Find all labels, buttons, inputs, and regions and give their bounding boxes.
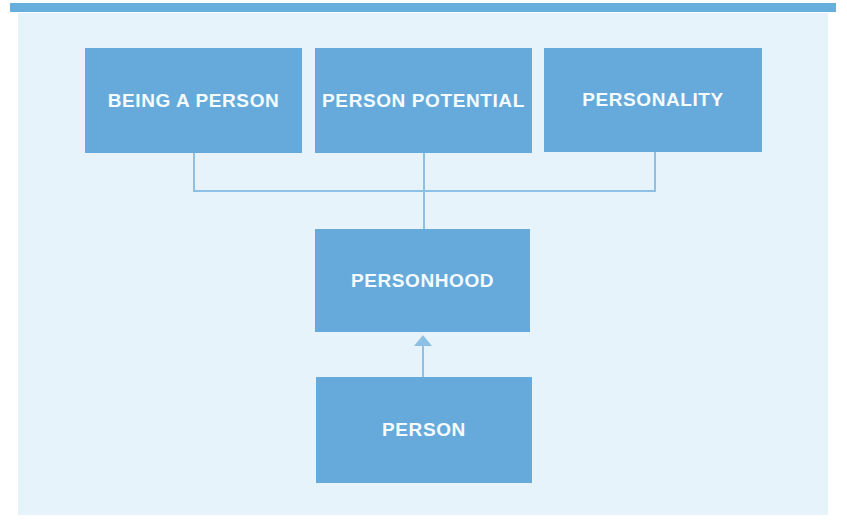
node-label: PERSONALITY xyxy=(582,89,724,111)
node-person-potential: PERSON POTENTIAL xyxy=(315,48,532,153)
node-personhood: PERSONHOOD xyxy=(315,229,530,332)
connector-vertical-left xyxy=(193,153,195,191)
node-being-a-person: BEING A PERSON xyxy=(85,48,302,153)
node-label: PERSONHOOD xyxy=(351,270,494,292)
connector-horizontal-bar xyxy=(193,190,656,192)
up-arrowhead-icon xyxy=(414,335,432,346)
node-personality: PERSONALITY xyxy=(544,48,762,152)
node-label: PERSON POTENTIAL xyxy=(322,90,525,112)
figure-canvas: BEING A PERSON PERSON POTENTIAL PERSONAL… xyxy=(0,0,847,529)
top-blue-strip xyxy=(10,3,836,12)
node-person: PERSON xyxy=(316,377,532,483)
connector-vertical-right xyxy=(654,152,656,191)
node-label: BEING A PERSON xyxy=(108,90,280,112)
node-label: PERSON xyxy=(382,419,466,441)
arrow-stem xyxy=(422,345,424,378)
